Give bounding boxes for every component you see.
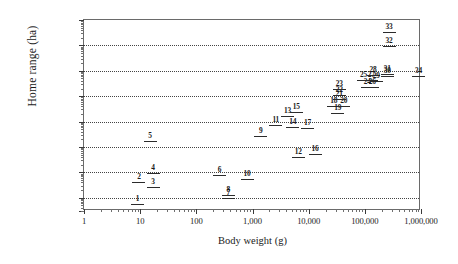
x-tick-label: 1,000,000 [386,216,456,226]
data-point-bar [383,46,396,47]
x-tick-minor [362,209,363,212]
y-tick-minor [81,205,84,206]
data-point-label: 34 [412,66,425,75]
x-tick-minor [269,209,270,212]
data-point-bar [381,74,394,75]
y-tick-minor [81,24,84,25]
data-point-label: 6 [213,165,226,174]
data-point-label: 8 [222,185,235,194]
x-tick-minor [132,209,133,212]
y-tick-minor [81,186,84,187]
y-tick-minor [81,73,84,74]
data-point-label: 31 [381,64,394,73]
data-point-bar [383,32,396,33]
x-tick-major [84,209,85,214]
x-tick-minor [392,209,393,212]
data-point-bar [333,89,346,90]
x-tick-minor [300,209,301,212]
y-tick-minor [81,123,84,124]
y-tick-minor [81,48,84,49]
data-point-bar [286,127,299,128]
y-tick-minor [81,126,84,127]
x-tick-minor [416,209,417,212]
x-axis-title: Body weight (g) [84,235,421,246]
data-point-label: 4 [147,163,160,172]
x-tick-minor [292,209,293,212]
x-tick-minor [157,209,158,212]
data-point-bar [292,157,305,158]
y-tick-minor [81,72,84,73]
y-tick-minor [81,84,84,85]
x-tick-major [196,209,197,214]
data-point-bar [213,175,226,176]
x-tick-minor [118,209,119,212]
x-tick-minor [348,209,349,212]
y-tick-minor [81,178,84,179]
y-tick-minor [81,176,84,177]
y-tick-minor [81,155,84,156]
x-tick-minor [184,209,185,212]
x-tick-minor [111,209,112,212]
y-tick-minor [81,129,84,130]
gridline-y [84,122,419,123]
y-tick-minor [81,139,84,140]
data-point-bar [144,141,157,142]
data-point-label: 12 [292,147,305,156]
y-tick-minor [81,38,84,39]
y-tick-minor [81,132,84,133]
y-tick-minor [81,33,84,34]
y-tick-minor [81,78,84,79]
y-tick-minor [81,75,84,76]
data-point-bar [366,87,379,88]
y-tick-minor [81,63,84,64]
y-tick-minor [81,202,84,203]
data-point-label: 17 [301,118,314,127]
data-point-bar [147,187,160,188]
x-tick-minor [404,209,405,212]
x-tick-minor [230,209,231,212]
y-axis-title: Home range (ha) [26,0,38,136]
y-tick-minor [81,97,84,98]
x-tick-minor [174,209,175,212]
data-point-label: 15 [290,102,303,111]
x-tick-minor [223,209,224,212]
y-tick-minor [81,203,84,204]
x-tick-minor [296,209,297,212]
x-tick-major [309,209,310,214]
data-point-label: 16 [309,144,322,153]
data-point-bar [290,112,303,113]
data-point-bar [309,154,322,155]
y-tick-minor [81,104,84,105]
y-tick-minor [81,47,84,48]
y-tick-minor [81,100,84,101]
x-tick-minor [236,209,237,212]
y-tick-minor [81,28,84,29]
gridline-y [84,45,419,46]
x-tick-major [421,209,422,214]
x-tick-minor [188,209,189,212]
x-tick-minor [101,209,102,212]
data-point-label: 1 [131,194,144,203]
y-tick-minor [81,165,84,166]
data-point-bar [131,204,144,205]
gridline-y [84,96,419,97]
data-point-bar [333,99,346,100]
y-tick-minor [81,53,84,54]
x-tick-minor [123,209,124,212]
y-tick-minor [81,151,84,152]
x-tick-minor [191,209,192,212]
y-tick-minor [81,180,84,181]
data-point-label: 33 [383,22,396,31]
x-tick-minor [167,209,168,212]
data-point-bar [147,173,160,174]
data-point-label: 5 [144,131,157,140]
y-tick-minor [81,102,84,103]
y-tick-minor [81,175,84,176]
x-tick-minor [382,209,383,212]
data-point-bar [222,195,235,196]
data-point-label: 10 [241,169,254,178]
y-tick-minor [81,99,84,100]
y-tick-minor [81,124,84,125]
x-tick-minor [279,209,280,212]
data-point-bar [333,95,346,96]
